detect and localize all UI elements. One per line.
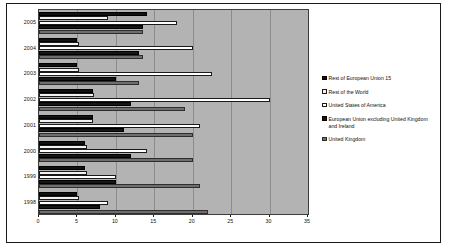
bar [39, 201, 108, 205]
bar [39, 128, 124, 132]
x-axis-tick-label: 35 [299, 218, 315, 224]
bar [39, 21, 177, 25]
bar [39, 145, 87, 149]
bar [39, 42, 79, 46]
x-axis-tick-label: 30 [261, 218, 277, 224]
legend-item-label: United States of America [329, 102, 386, 109]
legend-swatch-gray-icon [322, 137, 327, 142]
legend-item-label: Rest of European Union 15 [329, 75, 392, 82]
x-axis-tick-mark [307, 215, 308, 217]
year-group [39, 87, 308, 113]
year-group [39, 36, 308, 62]
bar [39, 30, 143, 34]
year-group [39, 139, 308, 165]
legend-item[interactable]: United States of America [322, 102, 434, 109]
bar [39, 119, 93, 123]
legend-swatch-white-icon [322, 103, 327, 108]
x-axis-tick-mark [230, 215, 231, 217]
x-axis-tick-label: 25 [222, 218, 238, 224]
legend-item[interactable]: Rest of European Union 15 [322, 75, 434, 82]
legend-item-label: United Kingdom [329, 136, 366, 143]
x-axis-tick-mark [115, 215, 116, 217]
bar [39, 81, 139, 85]
legend-swatch-black-icon [322, 76, 327, 81]
y-axis-tick-label: 1998 [19, 199, 36, 205]
y-axis-tick-label: 2000 [19, 148, 36, 154]
x-axis-tick-label: 20 [184, 218, 200, 224]
bar [39, 192, 77, 196]
x-axis-tick-mark [153, 215, 154, 217]
y-axis-tick-label: 2002 [19, 96, 36, 102]
y-axis-tick-label: 1999 [19, 173, 36, 179]
bar [39, 93, 94, 97]
bar [39, 68, 79, 72]
bar [39, 38, 77, 42]
y-axis-tick-label: 2003 [19, 70, 36, 76]
bar [39, 180, 116, 184]
year-group [39, 113, 308, 139]
bar [39, 77, 116, 81]
bar [39, 115, 93, 119]
legend-item[interactable]: Rest of the World [322, 89, 434, 96]
bar [39, 171, 87, 175]
x-axis-tick-label: 0 [30, 218, 46, 224]
bar [39, 184, 200, 188]
chart-figure: 20052004200320022001200019991998 0510152… [6, 3, 441, 243]
bar [39, 124, 200, 128]
bar [39, 166, 85, 170]
bar [39, 154, 131, 158]
year-group [39, 10, 308, 36]
bar [39, 196, 79, 200]
legend-item[interactable]: United Kingdom [322, 136, 434, 143]
bar [39, 98, 270, 102]
plot-wrapper: 20052004200320022001200019991998 0510152… [19, 9, 312, 221]
bar [39, 89, 93, 93]
y-axis-tick-label: 2004 [19, 45, 36, 51]
x-axis-tick-mark [76, 215, 77, 217]
bar [39, 12, 147, 16]
x-axis-tick-mark [38, 215, 39, 217]
legend-swatch-light-icon [322, 89, 327, 94]
bar [39, 55, 143, 59]
plot-area [38, 9, 309, 215]
x-axis-tick-mark [192, 215, 193, 217]
bar [39, 158, 193, 162]
bar [39, 107, 185, 111]
year-group [39, 62, 308, 88]
bar [39, 210, 208, 214]
bar [39, 63, 77, 67]
bar [39, 175, 116, 179]
x-axis-tick-label: 5 [68, 218, 84, 224]
year-group [39, 190, 308, 215]
x-axis-tick-label: 15 [145, 218, 161, 224]
gridline [308, 10, 309, 214]
x-axis-tick-label: 10 [107, 218, 123, 224]
y-axis-tick-label: 2001 [19, 122, 36, 128]
bar [39, 141, 85, 145]
bar [39, 46, 193, 50]
legend-swatch-dark-icon [322, 116, 327, 121]
legend-item-label: European Union excluding United Kingdom … [329, 116, 435, 130]
bar [39, 133, 193, 137]
bar [39, 102, 131, 106]
bar [39, 205, 100, 209]
legend-item-label: Rest of the World [329, 89, 369, 96]
legend-item[interactable]: European Union excluding United Kingdom … [322, 116, 434, 130]
bar [39, 25, 143, 29]
x-axis-tick-mark [269, 215, 270, 217]
year-group [39, 165, 308, 191]
bar [39, 51, 139, 55]
chart-legend: Rest of European Union 15Rest of the Wor… [322, 75, 434, 150]
bar [39, 16, 108, 20]
bar [39, 149, 147, 153]
y-axis-tick-label: 2005 [19, 19, 36, 25]
bar [39, 72, 212, 76]
